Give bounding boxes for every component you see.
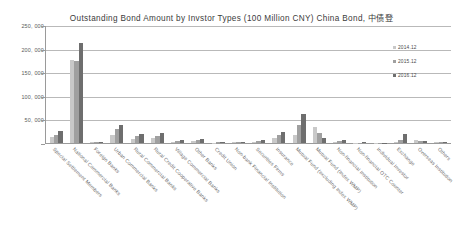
bar-group <box>370 26 390 143</box>
bar <box>322 138 326 143</box>
bar <box>79 43 83 143</box>
y-axis-tick-label: 200, 000 <box>0 47 44 53</box>
bar-group <box>350 26 370 143</box>
x-axis-label-slot: Non-bank Financial Institution <box>228 145 248 239</box>
bar-group <box>309 26 329 143</box>
y-axis-tick-mark <box>41 144 45 145</box>
chart-screenshot: Outstanding Bond Amount by Invstor Types… <box>0 0 463 239</box>
bar <box>180 140 184 143</box>
bar-series-container <box>46 26 451 143</box>
bar-group <box>107 26 127 143</box>
bar <box>200 139 204 143</box>
bar <box>139 134 143 143</box>
x-axis-label-slot: Individual Investor <box>370 145 390 239</box>
bar <box>160 133 164 143</box>
x-axis-label-slot: Exchange <box>390 145 410 239</box>
x-axis-label-slot: Special Settlement Members <box>46 145 66 239</box>
y-axis-tick-mark <box>41 73 45 74</box>
x-axis-label-slot: Non-financial Institution <box>330 145 350 239</box>
bar <box>281 132 285 143</box>
x-axis-label-slot: Mutual Fund (excluding Index WMP) <box>289 145 309 239</box>
x-axis-label-slot: Overseas Institution <box>411 145 431 239</box>
x-axis-label: Others <box>437 146 452 161</box>
x-axis-label-slot: Insurance <box>269 145 289 239</box>
y-axis-tick-label: 250, 000 <box>0 23 44 29</box>
bar <box>99 142 103 143</box>
y-axis-tick-label: - <box>0 141 44 147</box>
bar <box>423 141 427 143</box>
bar-group <box>269 26 289 143</box>
x-axis-label-slot: Non-financial OTC Counter <box>350 145 370 239</box>
bar-group <box>431 26 451 143</box>
bar <box>220 142 224 143</box>
chart-title: Outstanding Bond Amount by Invstor Types… <box>0 11 463 23</box>
y-axis-tick-label: 50, 000 <box>0 117 44 123</box>
legend-swatch-icon <box>393 74 396 77</box>
x-axis-label-slot: Urban Commercial Banks <box>107 145 127 239</box>
x-axis-label-slot: Other Banks <box>188 145 208 239</box>
x-axis-label-slot: Securities Firms <box>249 145 269 239</box>
x-axis-label-slot: Village Commercial Banks <box>168 145 188 239</box>
bar <box>403 134 407 143</box>
legend-item[interactable]: 2015.12 <box>393 58 417 64</box>
bar <box>362 142 366 143</box>
x-axis-label-slot: Credit Union <box>208 145 228 239</box>
x-axis-label-slot: Mutual Fund (Index WMP) <box>309 145 329 239</box>
legend-label: 2014.12 <box>398 45 417 50</box>
y-axis-tick-mark <box>41 26 45 27</box>
x-axis-labels: Special Settlement MembersNational Comme… <box>46 145 451 239</box>
bar-group <box>228 26 248 143</box>
bar <box>261 140 265 143</box>
bar-group <box>147 26 167 143</box>
y-axis-tick-label: 150, 000 <box>0 70 44 76</box>
bar-group <box>127 26 147 143</box>
bar-group <box>208 26 228 143</box>
x-axis-label-slot: Rural Credit Cooperative Banks <box>147 145 167 239</box>
y-axis-tick-mark <box>41 97 45 98</box>
bar <box>443 142 447 143</box>
legend-label: 2015.12 <box>398 59 417 64</box>
bar <box>58 131 62 143</box>
bar <box>119 125 123 143</box>
bar <box>382 143 386 144</box>
legend-swatch-icon <box>393 46 396 49</box>
legend-swatch-icon <box>393 60 396 63</box>
bar-group <box>168 26 188 143</box>
x-axis-label-slot: Others <box>431 145 451 239</box>
chart-legend: 2014.122015.122016.12 <box>393 44 417 78</box>
legend-item[interactable]: 2016.12 <box>393 72 417 78</box>
bar-group <box>249 26 269 143</box>
bar-group <box>289 26 309 143</box>
legend-label: 2016.12 <box>398 73 417 78</box>
bar <box>342 140 346 143</box>
bar-group <box>66 26 86 143</box>
bar-group <box>330 26 350 143</box>
bar <box>301 114 305 143</box>
y-axis-tick-mark <box>41 120 45 121</box>
y-axis-tick-label: 100, 000 <box>0 94 44 100</box>
x-axis-label-slot: Foreign Banks <box>87 145 107 239</box>
bar-group <box>188 26 208 143</box>
x-axis-label-slot: National Commercial Banks <box>66 145 86 239</box>
legend-item[interactable]: 2014.12 <box>393 44 417 50</box>
bar <box>241 142 245 143</box>
x-axis-label-slot: Rural Commercial Banks <box>127 145 147 239</box>
bar-group <box>46 26 66 143</box>
bar-group <box>87 26 107 143</box>
y-axis-tick-mark <box>41 50 45 51</box>
